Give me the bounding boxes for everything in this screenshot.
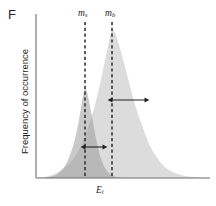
figure-panel-f: F Frequency of occurrence Ei ms mb σs σb (0, 0, 216, 206)
distribution-plot (0, 0, 216, 206)
curve-fills (36, 30, 208, 178)
background-distribution-area (36, 30, 208, 178)
